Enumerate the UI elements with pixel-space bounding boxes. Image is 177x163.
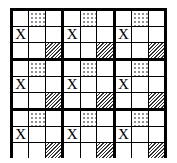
empty-cell xyxy=(97,27,112,42)
hatched-cell xyxy=(149,43,164,58)
empty-cell xyxy=(149,127,164,142)
empty-cell xyxy=(13,11,28,26)
empty-cell xyxy=(132,77,147,92)
empty-cell xyxy=(132,127,147,142)
hatched-cell xyxy=(149,93,164,108)
dotted-cell xyxy=(81,111,96,126)
block: X xyxy=(13,11,61,58)
empty-cell xyxy=(64,43,79,58)
hatched-cell xyxy=(46,93,61,108)
empty-cell xyxy=(64,111,79,126)
empty-cell xyxy=(132,27,147,42)
empty-cell xyxy=(81,127,96,142)
empty-cell xyxy=(64,93,79,108)
empty-cell xyxy=(116,11,131,26)
empty-cell xyxy=(149,27,164,42)
empty-cell xyxy=(116,61,131,76)
empty-cell xyxy=(13,111,28,126)
empty-cell xyxy=(81,43,96,58)
empty-cell xyxy=(29,27,44,42)
dotted-cell xyxy=(132,11,147,26)
dotted-cell xyxy=(132,61,147,76)
block: X xyxy=(116,11,164,58)
block: X xyxy=(64,111,112,158)
dotted-cell xyxy=(29,111,44,126)
empty-cell xyxy=(81,27,96,42)
empty-cell xyxy=(116,143,131,158)
empty-cell xyxy=(46,127,61,142)
empty-cell xyxy=(81,77,96,92)
hatched-cell xyxy=(97,143,112,158)
hatched-cell xyxy=(149,143,164,158)
x-mark-cell: X xyxy=(64,27,79,42)
empty-cell xyxy=(13,61,28,76)
block: X xyxy=(64,61,112,108)
block: X xyxy=(64,11,112,58)
empty-cell xyxy=(116,43,131,58)
dotted-cell xyxy=(29,11,44,26)
empty-cell xyxy=(97,61,112,76)
dotted-cell xyxy=(132,111,147,126)
empty-cell xyxy=(29,77,44,92)
block: X xyxy=(13,61,61,108)
hatched-cell xyxy=(97,93,112,108)
empty-cell xyxy=(29,127,44,142)
hatched-cell xyxy=(46,143,61,158)
empty-cell xyxy=(46,61,61,76)
x-mark-cell: X xyxy=(13,127,28,142)
x-mark-cell: X xyxy=(116,27,131,42)
block: X xyxy=(116,111,164,158)
hatched-cell xyxy=(46,43,61,58)
empty-cell xyxy=(46,77,61,92)
empty-cell xyxy=(149,11,164,26)
x-mark-cell: X xyxy=(116,77,131,92)
empty-cell xyxy=(46,111,61,126)
empty-cell xyxy=(97,77,112,92)
empty-cell xyxy=(64,11,79,26)
empty-cell xyxy=(97,111,112,126)
dotted-cell xyxy=(81,11,96,26)
dotted-cell xyxy=(29,61,44,76)
empty-cell xyxy=(81,93,96,108)
x-mark-cell: X xyxy=(13,77,28,92)
dotted-cell xyxy=(81,61,96,76)
block: X xyxy=(13,111,61,158)
empty-cell xyxy=(29,143,44,158)
empty-cell xyxy=(149,111,164,126)
empty-cell xyxy=(46,27,61,42)
empty-cell xyxy=(132,93,147,108)
empty-cell xyxy=(97,11,112,26)
empty-cell xyxy=(81,143,96,158)
empty-cell xyxy=(132,143,147,158)
x-mark-cell: X xyxy=(64,127,79,142)
empty-cell xyxy=(64,143,79,158)
empty-cell xyxy=(13,143,28,158)
hatched-cell xyxy=(97,43,112,58)
empty-cell xyxy=(116,93,131,108)
empty-cell xyxy=(29,93,44,108)
empty-cell xyxy=(46,11,61,26)
empty-cell xyxy=(13,43,28,58)
x-mark-cell: X xyxy=(64,77,79,92)
outer-grid: XXXXXXXXX xyxy=(10,8,167,158)
empty-cell xyxy=(132,43,147,58)
empty-cell xyxy=(149,77,164,92)
empty-cell xyxy=(13,93,28,108)
x-mark-cell: X xyxy=(13,27,28,42)
empty-cell xyxy=(64,61,79,76)
empty-cell xyxy=(149,61,164,76)
x-mark-cell: X xyxy=(116,127,131,142)
block: X xyxy=(116,61,164,108)
empty-cell xyxy=(97,127,112,142)
empty-cell xyxy=(116,111,131,126)
empty-cell xyxy=(29,43,44,58)
